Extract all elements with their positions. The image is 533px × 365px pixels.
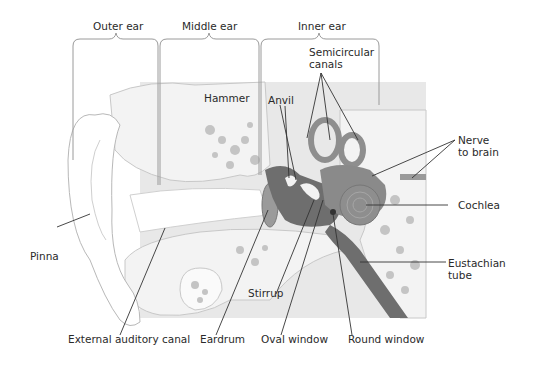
- label-inner-ear: Inner ear: [298, 20, 346, 32]
- label-eustachian-tube: Eustachian tube: [448, 257, 506, 281]
- label-nerve-to-brain: Nerve to brain: [458, 134, 499, 158]
- label-external-auditory-canal: External auditory canal: [68, 333, 190, 345]
- ear-diagram: [0, 0, 533, 365]
- label-round-window: Round window: [348, 333, 424, 345]
- label-anvil: Anvil: [268, 94, 294, 106]
- label-outer-ear: Outer ear: [93, 20, 143, 32]
- label-middle-ear: Middle ear: [182, 20, 237, 32]
- label-eardrum: Eardrum: [200, 333, 245, 345]
- label-oval-window: Oval window: [261, 333, 328, 345]
- label-hammer: Hammer: [204, 92, 250, 104]
- label-pinna: Pinna: [30, 250, 59, 262]
- label-stirrup: Stirrup: [248, 287, 283, 299]
- label-cochlea: Cochlea: [458, 199, 500, 211]
- label-semicircular-canals: Semicircular canals: [309, 46, 374, 70]
